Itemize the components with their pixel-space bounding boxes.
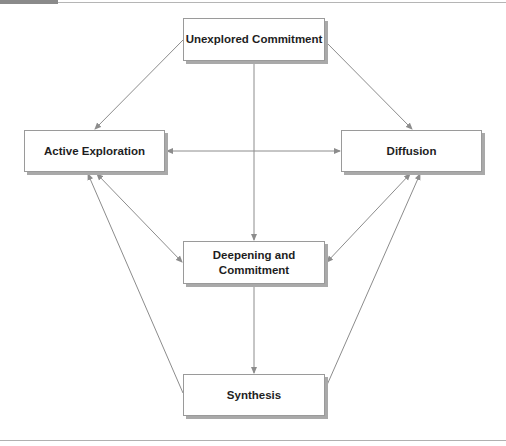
node-diffusion: Diffusion [341,130,482,172]
node-deepening-and-commitment: Deepening and Commitment [183,241,325,284]
arrow-synthesis-to-active [88,174,183,393]
arrow-unexplored-to-diffusion [326,42,412,129]
node-label: Active Exploration [44,144,145,159]
arrow-synthesis-to-diffusion [327,174,420,385]
node-active-exploration: Active Exploration [24,130,165,172]
node-label: Deepening and Commitment [204,248,304,278]
node-label: Synthesis [227,388,281,403]
figure-footer-rule [0,440,506,441]
node-synthesis: Synthesis [183,374,325,416]
arrow-unexplored-to-active [95,40,183,129]
node-label: Unexplored Commitment [186,32,323,47]
node-unexplored-commitment: Unexplored Commitment [183,18,325,61]
arrow-active-deepening-bidirectional [97,174,182,262]
node-label: Diffusion [387,144,437,159]
arrow-diffusion-deepening-bidirectional [327,174,410,262]
